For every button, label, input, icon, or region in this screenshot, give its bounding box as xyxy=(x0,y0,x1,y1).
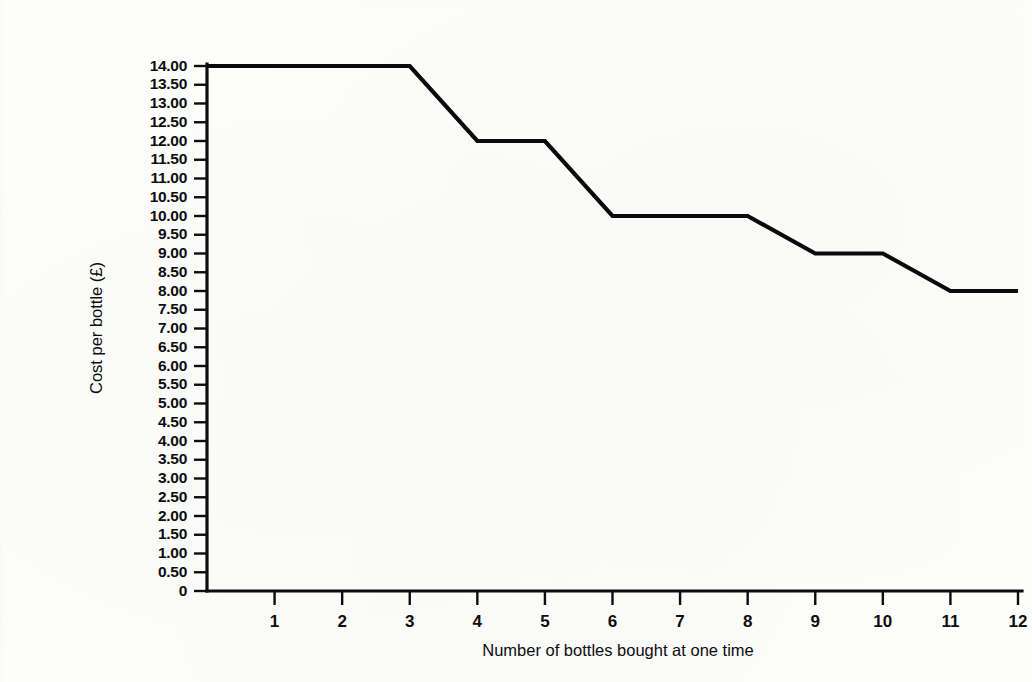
x-axis-tick-label: 4 xyxy=(473,612,483,631)
y-axis-tick-label: 0.50 xyxy=(158,563,187,580)
y-axis-tick-label: 6.00 xyxy=(158,357,187,374)
y-axis-tick-group xyxy=(194,66,207,591)
cost-per-bottle-line xyxy=(207,66,1018,291)
y-axis-tick-label: 3.00 xyxy=(158,469,187,486)
x-axis-tick-label: 5 xyxy=(540,612,549,631)
x-axis-title: Number of bottles bought at one time xyxy=(482,641,754,659)
y-axis-tick-label: 2.00 xyxy=(158,507,187,524)
y-axis-tick-label: 8.00 xyxy=(158,282,187,299)
y-axis-tick-label: 5.50 xyxy=(158,375,187,392)
x-axis-tick-group xyxy=(275,591,1018,605)
x-axis-tick-label: 9 xyxy=(811,612,820,631)
y-axis-tick-label: 11.50 xyxy=(151,150,187,167)
y-axis-tick-label: 10.00 xyxy=(150,207,187,224)
x-axis-tick-label: 7 xyxy=(675,612,684,631)
y-axis-tick-label: 6.50 xyxy=(158,338,187,355)
y-axis-tick-label: 0 xyxy=(179,582,187,599)
y-axis-title: Cost per bottle (£) xyxy=(87,262,105,394)
x-axis-label-group: 123456789101112 xyxy=(270,612,1028,631)
y-axis-tick-label: 1.00 xyxy=(158,544,187,561)
y-axis-tick-label: 1.50 xyxy=(158,525,187,542)
y-axis-label-group: 14.0013.5013.0012.5012.0011.5011.0010.50… xyxy=(150,57,187,599)
x-axis-tick-label: 12 xyxy=(1009,612,1028,631)
line-chart: 14.0013.5013.0012.5012.0011.5011.0010.50… xyxy=(40,16,984,666)
x-axis-tick-label: 2 xyxy=(337,612,346,631)
y-axis-tick-label: 4.50 xyxy=(158,413,187,430)
x-axis-tick-label: 11 xyxy=(941,612,959,631)
y-axis-tick-label: 9.50 xyxy=(158,225,187,242)
y-axis-tick-label: 7.00 xyxy=(158,319,187,336)
y-axis-tick-label: 12.50 xyxy=(150,113,187,130)
x-axis-tick-label: 3 xyxy=(405,612,414,631)
x-axis-tick-label: 10 xyxy=(873,612,892,631)
y-axis-tick-label: 12.00 xyxy=(150,132,187,149)
x-axis-tick-label: 1 xyxy=(270,612,279,631)
x-axis-tick-label: 8 xyxy=(743,612,752,631)
y-axis-tick-label: 11.00 xyxy=(151,169,187,186)
y-axis-tick-label: 13.00 xyxy=(150,94,187,111)
y-axis-tick-label: 9.00 xyxy=(158,244,187,261)
x-axis-tick-label: 6 xyxy=(608,612,617,631)
y-axis-tick-label: 14.00 xyxy=(150,57,187,74)
y-axis-tick-label: 13.50 xyxy=(150,75,187,92)
y-axis-tick-label: 8.50 xyxy=(158,263,187,280)
y-axis-tick-label: 5.00 xyxy=(158,394,187,411)
y-axis-tick-label: 3.50 xyxy=(158,450,187,467)
y-axis-tick-label: 10.50 xyxy=(150,188,187,205)
y-axis-tick-label: 4.00 xyxy=(158,432,187,449)
chart-svg: 14.0013.5013.0012.5012.0011.5011.0010.50… xyxy=(40,16,1032,682)
y-axis-tick-label: 7.50 xyxy=(158,300,187,317)
y-axis-tick-label: 2.50 xyxy=(158,488,187,505)
